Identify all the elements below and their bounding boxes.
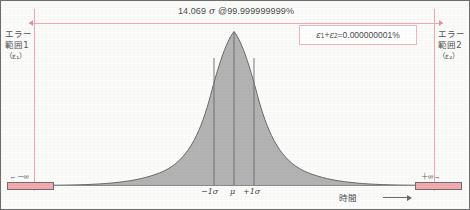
error-range-2-line3: （ε₂） [438, 51, 465, 62]
pos-infinity-symbol: ＋∞ [421, 172, 433, 181]
neg-infinity-symbol: －∞ [17, 172, 29, 181]
error-range-1-label: エラー 範囲1 （ε₁） [5, 29, 32, 62]
pos-inf-arrow-icon: → [433, 172, 441, 181]
neg-inf-arrow-icon: ← [9, 172, 17, 181]
sigma-confidence-caption: 14.069 σ @99.999999999% [1, 6, 470, 16]
tick-label-mu: μ [230, 187, 235, 196]
tick-label-plus-1-sigma: +1σ [243, 187, 260, 196]
negative-infinity-label: ←－∞ [9, 170, 29, 181]
positive-infinity-label: ＋∞→ [421, 170, 441, 181]
epsilon-sum-value: 0.000000001% [343, 30, 400, 40]
tick-label-minus-1-sigma: −1σ [201, 187, 218, 196]
error-bar-left [7, 182, 54, 190]
sigma-span-arrow-right [439, 20, 443, 26]
normal-distribution-figure: 14.069 σ @99.999999999% ε1+ε2=0.00000000… [0, 0, 470, 210]
error-range-1-line2: 範囲1 [5, 40, 32, 51]
at-symbol: @ [218, 6, 227, 16]
error-bar-right [415, 182, 462, 190]
error-range-2-line2: 範囲2 [438, 40, 465, 51]
epsilon-sum-box: ε1+ε2=0.000000001% [299, 25, 417, 45]
error-range-2-label: エラー 範囲2 （ε₂） [438, 29, 465, 62]
confidence-value: 99.999999999% [227, 6, 294, 16]
sigma-span-line [29, 23, 443, 24]
error-boundary-line-right [434, 9, 435, 191]
error-boundary-line-left [34, 9, 35, 191]
axis-baseline [34, 185, 434, 186]
x-axis-title: 時間 [339, 191, 357, 203]
error-range-2-line1: エラー [438, 29, 465, 40]
sigma-span-arrow-left [29, 20, 33, 26]
sigma-value: 14.069 [178, 6, 206, 16]
error-range-1-line1: エラー [5, 29, 32, 40]
error-range-1-line3: （ε₁） [5, 51, 32, 62]
x-axis-arrow-icon [383, 197, 411, 198]
